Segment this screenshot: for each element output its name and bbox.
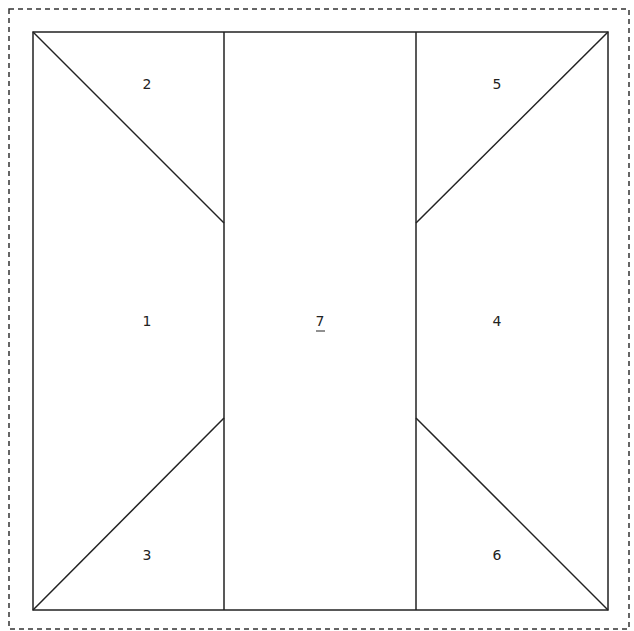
piece-label-1: 1	[143, 313, 152, 329]
piece-label-5: 5	[493, 76, 502, 92]
piece-label-4: 4	[493, 313, 502, 329]
piece-label-3: 3	[143, 547, 152, 563]
quilt-block-diagram: 2 1 3 7 5 4 6	[0, 0, 634, 631]
diagonal-seam-5	[416, 32, 608, 223]
piece-label-6: 6	[493, 547, 502, 563]
diagonal-seam-2	[33, 32, 224, 223]
diagonal-seam-3	[33, 418, 224, 610]
piece-label-2: 2	[143, 76, 152, 92]
diagonal-seam-6	[416, 418, 608, 610]
piece-label-7: 7	[316, 313, 325, 329]
